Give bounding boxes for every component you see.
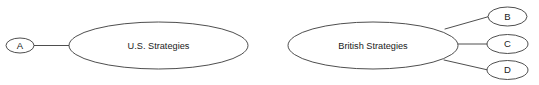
node-d-label: D <box>504 64 511 75</box>
edge-british-to-d <box>444 60 488 70</box>
node-b[interactable]: B <box>488 7 527 26</box>
concept-map-canvas: A U.S. Strategies British Strategies B <box>0 0 539 85</box>
cluster-us-strategies: A U.S. Strategies <box>6 22 248 69</box>
cluster-british-strategies: British Strategies B C D <box>288 7 528 80</box>
node-b-label: B <box>504 11 510 22</box>
node-us-strategies-label: U.S. Strategies <box>128 41 190 51</box>
concept-map-svg: A U.S. Strategies British Strategies B <box>0 0 539 85</box>
node-d[interactable]: D <box>487 61 528 80</box>
node-british-strategies-label: British Strategies <box>338 41 408 51</box>
node-a[interactable]: A <box>6 38 34 53</box>
node-a-label: A <box>17 40 24 51</box>
node-c[interactable]: C <box>487 35 528 54</box>
node-us-strategies[interactable]: U.S. Strategies <box>69 22 248 69</box>
node-british-strategies[interactable]: British Strategies <box>288 22 458 69</box>
node-c-label: C <box>504 38 511 49</box>
edge-british-to-b <box>445 17 489 30</box>
